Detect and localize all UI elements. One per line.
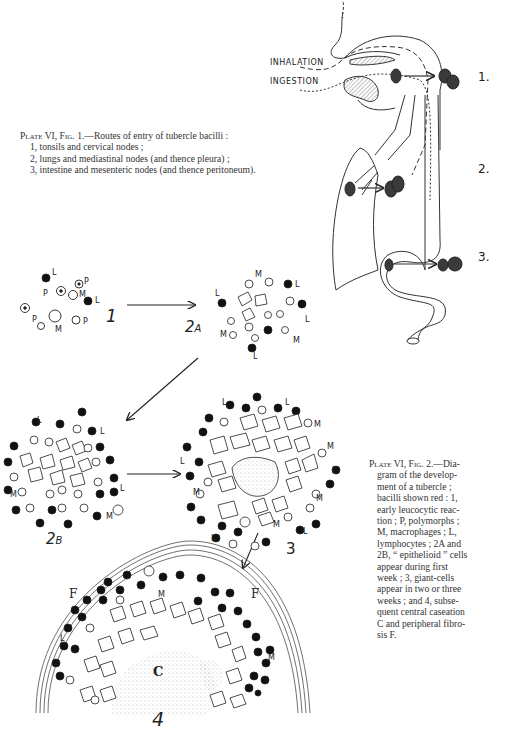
- stage-label-2b: 2B: [46, 530, 62, 548]
- stage-label-4: 4: [152, 708, 164, 730]
- cell-label-lymphocyte: L: [211, 534, 215, 543]
- stage-label-1: 1: [106, 306, 117, 326]
- cell-label-macrophage: M: [273, 520, 280, 529]
- fig1-caption-item-1: 1, tonsils and cervical nodes ;: [20, 141, 350, 152]
- fig2-caption-line: early leucocytic reac-: [369, 504, 504, 515]
- fig2-caption-line: appear during first: [369, 561, 504, 572]
- cell-label-lymphocyte: L: [180, 457, 184, 466]
- cell-label-macrophage: M: [268, 653, 275, 662]
- fig2-caption-line: lymphocytes ; 2A and: [369, 538, 504, 549]
- cell-label-macrophage: M: [79, 290, 86, 299]
- cell-label-lymphocyte: L: [52, 268, 56, 277]
- cell-label-lymphocyte: L: [332, 466, 336, 475]
- cell-label-lymphocyte: L: [253, 352, 257, 361]
- cell-label-lymphocyte: L: [295, 280, 299, 289]
- fig1-caption: Plate VI, Fig. 1.—Routes of entry of tub…: [20, 130, 350, 176]
- cell-label-macrophage: M: [158, 590, 165, 599]
- fig2-caption-line: C and peripheral fibro-: [369, 618, 504, 629]
- site-number-2: 2.: [478, 162, 489, 176]
- fig2-caption-line: 2B, “ epithelioid ” cells: [369, 549, 504, 560]
- cell-label-macrophage: M: [314, 420, 321, 429]
- fibrosis-label-left: F: [69, 587, 77, 601]
- cell-label-macrophage: M: [55, 325, 62, 334]
- caseation-label: C: [153, 664, 163, 679]
- site-number-1: 1.: [478, 70, 489, 84]
- stage4-tubercle: [36, 541, 310, 716]
- stage-label-3: 3: [286, 540, 296, 558]
- fig2-caption-line: quent central caseation: [369, 606, 504, 617]
- tonsil-node: [391, 69, 401, 83]
- cell-label-polymorph: P: [43, 289, 48, 298]
- fibrosis-label-right: F: [251, 587, 259, 601]
- cell-label-polymorph: P: [83, 317, 88, 326]
- cell-label-polymorph: P: [84, 277, 89, 286]
- fig2-caption-line: Plate VI, Fig. 2.—Dia-: [369, 458, 504, 469]
- label-ingestion: INGESTION: [270, 77, 319, 86]
- stage3-cells: [183, 393, 340, 550]
- cell-label-polymorph: P: [32, 315, 37, 324]
- fig2-caption-line: appear in two or three: [369, 583, 504, 594]
- cell-label-lymphocyte: L: [285, 398, 289, 407]
- cell-label-lymphocyte: L: [95, 296, 99, 305]
- cell-label-lymphocyte: L: [305, 315, 309, 324]
- stage2b-cells: [4, 408, 123, 528]
- cell-label-lymphocyte: L: [37, 416, 41, 425]
- cell-label-lymphocyte: L: [215, 289, 219, 298]
- cell-label-macrophage: M: [10, 490, 17, 499]
- cell-label-macrophage: M: [327, 442, 334, 451]
- fig2-caption-line: ment of a tubercle ;: [369, 481, 504, 492]
- fig1-caption-item-2: 2, lungs and mediastinal nodes (and then…: [20, 153, 350, 164]
- label-inhalation: INHALATION: [270, 58, 324, 67]
- fig2-caption-line: tion ; P, polymorphs ;: [369, 515, 504, 526]
- lung-node: [345, 182, 355, 196]
- cell-label-macrophage: M: [106, 512, 113, 521]
- cell-label-lymphocyte: L: [222, 398, 226, 407]
- cell-label-lymphocyte: L: [120, 484, 124, 493]
- fig2-caption-line: week ; 3, giant-cells: [369, 572, 504, 583]
- cell-label-lymphocyte: L: [60, 634, 64, 643]
- cell-label-macrophage: M: [316, 494, 323, 503]
- fig2-caption-line: M, macrophages ; L,: [369, 526, 504, 537]
- fig2-caption-line: gram of the develop-: [369, 469, 504, 480]
- fig2-caption-line: sis F.: [369, 629, 504, 640]
- cell-label-macrophage: M: [293, 336, 300, 345]
- stage-label-2a: 2A: [185, 318, 201, 336]
- cell-label-lymphocyte: L: [100, 427, 104, 436]
- fig1-caption-title: Plate VI, Fig. 1.—Routes of entry of tub…: [20, 130, 350, 141]
- site-number-3: 3.: [478, 250, 489, 264]
- cell-label-macrophage: M: [255, 270, 262, 279]
- cell-label-lymphocyte: L: [303, 527, 307, 536]
- cell-label-macrophage: M: [220, 330, 227, 339]
- fig1-caption-item-3: 3, intestine and mesenteric nodes (and t…: [20, 164, 350, 175]
- fig2-caption-line: weeks ; and 4, subse-: [369, 595, 504, 606]
- intestine-node: [385, 259, 393, 271]
- cell-label-macrophage: M: [193, 488, 200, 497]
- fig2-caption-line: bacilli shown red : 1,: [369, 492, 504, 503]
- fig2-caption: Plate VI, Fig. 2.—Dia- gram of the devel…: [369, 458, 504, 641]
